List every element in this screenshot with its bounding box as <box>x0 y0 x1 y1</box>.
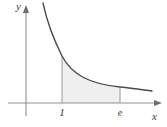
x-axis-label: x <box>152 111 157 122</box>
hyperbola-curve <box>43 3 152 91</box>
y-axis-label: y <box>16 1 21 12</box>
x-tick-label-e: e <box>114 108 126 118</box>
graph-canvas <box>0 0 167 127</box>
math-figure-container: y x 1 e <box>0 0 167 127</box>
x-axis-arrow-icon <box>154 100 162 106</box>
shaded-region <box>62 56 120 103</box>
y-axis-arrow-icon <box>23 5 29 13</box>
x-tick-label-1: 1 <box>56 107 68 118</box>
